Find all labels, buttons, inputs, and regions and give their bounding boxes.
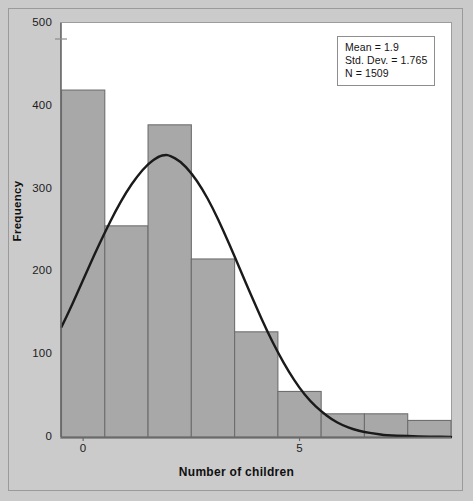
y-tick-label: 400 [12, 99, 52, 111]
statistics-legend-box: Mean = 1.9 Std. Dev. = 1.765 N = 1509 [337, 36, 435, 86]
legend-std-dev: Std. Dev. = 1.765 [345, 54, 427, 67]
histogram-figure: 0100200300400500 05 Frequency Number of … [0, 0, 473, 501]
histogram-bar [235, 332, 278, 437]
y-tick-label: 500 [12, 16, 52, 28]
x-tick-label: 0 [63, 442, 103, 454]
histogram-bar [148, 125, 191, 437]
x-axis-title: Number of children [0, 465, 473, 479]
histogram-bar [105, 226, 148, 437]
legend-sample-size: N = 1509 [345, 67, 427, 80]
y-tick-label: 100 [12, 347, 52, 359]
histogram-bar [408, 420, 451, 437]
y-tick-label: 0 [12, 430, 52, 442]
legend-mean: Mean = 1.9 [345, 41, 427, 54]
histogram-bar [278, 391, 321, 437]
histogram-bars [62, 90, 452, 437]
histogram-bar [62, 90, 105, 437]
x-tick-label: 5 [280, 442, 320, 454]
y-axis-title: Frequency [11, 181, 23, 242]
histogram-bar [191, 259, 234, 437]
y-tick-label: 200 [12, 264, 52, 276]
